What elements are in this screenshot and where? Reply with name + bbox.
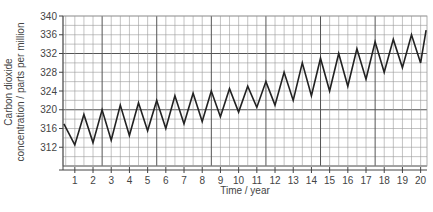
y-tick-label: 328 [40,67,57,78]
y-tick-label: 340 [40,11,57,22]
chart-grid [63,16,427,166]
co2-data-line [64,30,426,145]
y-axis-label-line2: concentration / parts per million [15,23,26,162]
co2-line-chart: 312316320324328332336340 123456789101112… [0,0,433,212]
x-tick-label: 13 [288,175,300,186]
y-tick-label: 336 [40,29,57,40]
y-tick-label: 332 [40,48,57,59]
x-tick-label: 7 [181,175,187,186]
x-tick-label: 14 [306,175,318,186]
x-tick-label: 20 [415,175,427,186]
x-tick-label: 4 [127,175,133,186]
x-tick-label: 17 [360,175,372,186]
x-tick-label: 5 [145,175,151,186]
y-tick-label: 320 [40,104,57,115]
y-axis-label-line1: Carbon dioxide [3,58,14,126]
x-tick-label: 8 [199,175,205,186]
y-tick-label: 316 [40,123,57,134]
y-tick-label: 312 [40,142,57,153]
x-tick-label: 2 [90,175,96,186]
x-tick-label: 6 [163,175,169,186]
x-tick-label: 3 [108,175,114,186]
y-axis: 312316320324328332336340 [40,11,63,171]
x-tick-label: 19 [397,175,409,186]
x-tick-label: 18 [379,175,391,186]
x-tick-label: 12 [269,175,281,186]
x-tick-label: 16 [342,175,354,186]
x-tick-label: 15 [324,175,336,186]
x-axis-label: Time / year [220,185,270,196]
x-tick-label: 1 [72,175,78,186]
x-axis: 1234567891011121314151617181920 [59,167,427,186]
y-tick-label: 324 [40,86,57,97]
